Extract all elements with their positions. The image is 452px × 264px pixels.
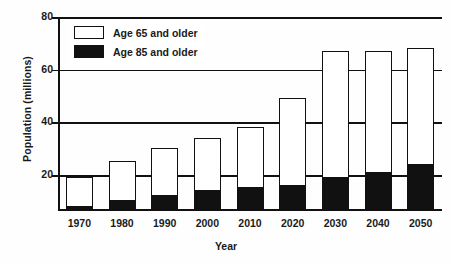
legend-swatch-hollow bbox=[74, 26, 104, 39]
legend-item-2: Age 85 and older bbox=[74, 43, 198, 60]
bar-elderly-2030 bbox=[322, 177, 349, 211]
chart-legend: Age 65 and olderAge 85 and older bbox=[70, 21, 204, 65]
bar-elderly-2000 bbox=[194, 190, 221, 211]
bar-group-2020 bbox=[279, 19, 306, 211]
bar-group-2010 bbox=[237, 19, 264, 211]
x-axis-title: Year bbox=[0, 240, 452, 252]
x-tick-1990: 1990 bbox=[143, 217, 187, 229]
bar-group-2030 bbox=[322, 19, 349, 211]
bar-elderly-2010 bbox=[237, 187, 264, 211]
legend-item-1: Age 65 and older bbox=[74, 24, 198, 41]
y-axis-line bbox=[58, 17, 60, 211]
population-bar-chart: Population (millions) Year 20406080 1970… bbox=[0, 0, 452, 264]
x-tick-2010: 2010 bbox=[228, 217, 272, 229]
x-tick-2020: 2020 bbox=[271, 217, 315, 229]
y-tick-60: 60 bbox=[13, 63, 53, 75]
y-tick-80: 80 bbox=[13, 10, 53, 22]
x-tick-1980: 1980 bbox=[100, 217, 144, 229]
bar-group-2050 bbox=[407, 19, 434, 211]
y-tick-20: 20 bbox=[13, 168, 53, 180]
legend-label-1: Age 65 and older bbox=[113, 27, 198, 39]
y-tick-40: 40 bbox=[13, 115, 53, 127]
x-tick-2000: 2000 bbox=[185, 217, 229, 229]
legend-swatch-filled bbox=[74, 45, 104, 58]
x-axis-line bbox=[58, 209, 442, 211]
bar-elderly-2040 bbox=[365, 172, 392, 212]
y-axis-title: Population (millions) bbox=[21, 29, 33, 189]
bar-group-2040 bbox=[365, 19, 392, 211]
x-tick-1970: 1970 bbox=[57, 217, 101, 229]
legend-label-2: Age 85 and older bbox=[113, 46, 198, 58]
x-tick-2050: 2050 bbox=[399, 217, 443, 229]
x-tick-2030: 2030 bbox=[313, 217, 357, 229]
bar-elderly-2020 bbox=[279, 185, 306, 211]
x-tick-2040: 2040 bbox=[356, 217, 400, 229]
bar-elderly-2050 bbox=[407, 164, 434, 211]
